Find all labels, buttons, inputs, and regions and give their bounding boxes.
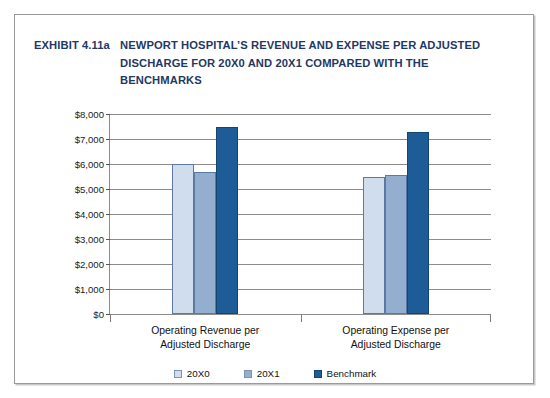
category-tick — [301, 314, 302, 322]
category-tick — [490, 314, 491, 322]
legend-swatch-20x1 — [244, 370, 252, 378]
bar-chart: $0$1,000$2,000$3,000$4,000$5,000$6,000$7… — [15, 15, 535, 385]
bar-20x1-1 — [385, 175, 407, 314]
category-label-line: Operating Expense per — [301, 324, 492, 338]
bar-20x1-0 — [194, 172, 216, 315]
bar-20x0-0 — [172, 164, 194, 314]
plot-area: $0$1,000$2,000$3,000$4,000$5,000$6,000$7… — [110, 114, 491, 314]
y-tick-label: $8,000 — [75, 109, 104, 120]
chart-legend: 20X020X1Benchmark — [15, 368, 535, 379]
y-tick-label: $5,000 — [75, 184, 104, 195]
legend-label: 20X1 — [257, 368, 280, 379]
bar-group — [110, 114, 301, 314]
category-tick — [110, 314, 111, 322]
exhibit-frame: EXHIBIT 4.11a NEWPORT HOSPITAL’S REVENUE… — [14, 14, 534, 384]
bar-benchmark-0 — [216, 127, 238, 315]
y-tick-label: $4,000 — [75, 209, 104, 220]
legend-item-20x0: 20X0 — [174, 368, 210, 379]
legend-label: 20X0 — [187, 368, 210, 379]
legend-swatch-benchmark — [314, 370, 322, 378]
legend-label: Benchmark — [327, 368, 377, 379]
y-tick-label: $1,000 — [75, 284, 104, 295]
category-label: Operating Revenue perAdjusted Discharge — [110, 324, 301, 352]
category-label-line: Adjusted Discharge — [110, 338, 301, 352]
bar-groups — [110, 114, 491, 314]
category-label-line: Adjusted Discharge — [301, 338, 492, 352]
category-label-line: Operating Revenue per — [110, 324, 301, 338]
legend-item-20x1: 20X1 — [244, 368, 280, 379]
y-tick-label: $7,000 — [75, 134, 104, 145]
category-label: Operating Expense perAdjusted Discharge — [301, 324, 492, 352]
bar-benchmark-1 — [407, 132, 429, 315]
y-tick-label: $2,000 — [75, 259, 104, 270]
category-axis — [110, 314, 491, 323]
legend-item-benchmark: Benchmark — [314, 368, 377, 379]
legend-swatch-20x0 — [174, 370, 182, 378]
y-tick-label: $3,000 — [75, 234, 104, 245]
bar-20x0-1 — [363, 177, 385, 315]
bar-group — [301, 114, 492, 314]
y-tick-label: $6,000 — [75, 159, 104, 170]
y-tick-label: $0 — [93, 309, 104, 320]
